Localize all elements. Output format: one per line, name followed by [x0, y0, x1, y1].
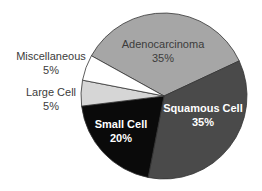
label-miscellaneous: Miscellaneous — [16, 50, 86, 62]
value-squamous-cell: 35% — [192, 116, 214, 128]
label-squamous-cell: Squamous Cell — [163, 102, 242, 114]
value-adenocarcinoma: 35% — [152, 52, 174, 64]
value-large-cell: 5% — [43, 100, 59, 112]
label-adenocarcinoma: Adenocarcinoma — [122, 38, 205, 50]
pie-chart: Adenocarcinoma 35% Squamous Cell 35% Sma… — [0, 0, 262, 191]
label-large-cell: Large Cell — [26, 86, 76, 98]
label-small-cell: Small Cell — [95, 118, 148, 130]
value-small-cell: 20% — [110, 132, 132, 144]
value-miscellaneous: 5% — [43, 64, 59, 76]
